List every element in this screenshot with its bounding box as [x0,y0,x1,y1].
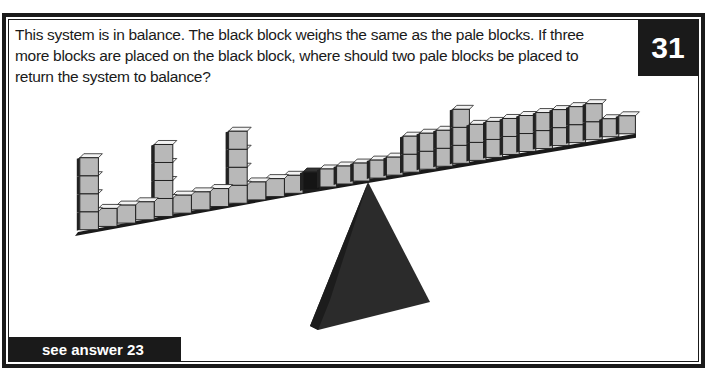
puzzle-number-badge: 31 [638,20,698,76]
puzzle-inner-border: This system is in balance. The black blo… [8,19,699,362]
see-answer-link[interactable]: see answer 23 [9,337,181,361]
question-text: This system is in balance. The black blo… [15,24,605,87]
puzzle-frame: This system is in balance. The black blo… [2,13,705,368]
